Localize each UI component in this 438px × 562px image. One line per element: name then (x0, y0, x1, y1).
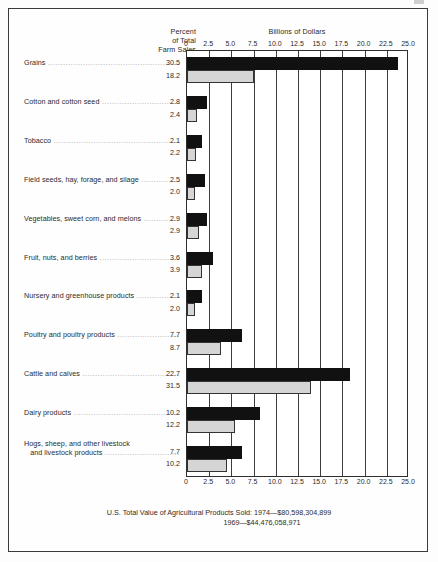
percent-1969: 31.5 (150, 381, 180, 390)
chart-gridline (298, 51, 299, 476)
percent-of-total-value: 22.731.5 (150, 369, 180, 391)
percent-of-total-value: 2.52.0 (150, 175, 180, 197)
x-tick-label: 22.5 (379, 478, 393, 485)
chart-gridline (365, 51, 366, 476)
chart-plot-area: 1974 1969 (186, 50, 408, 477)
bar-1969 (187, 265, 202, 278)
footnote-line-1: U.S. Total Value of Agricultural Product… (107, 508, 331, 517)
percent-1969: 18.2 (150, 71, 180, 80)
percent-of-total-value: 2.12.2 (150, 136, 180, 158)
percent-1974: 7.7 (150, 330, 180, 339)
x-tick-label: 12.5 (290, 40, 304, 47)
x-tick-label: 2.5 (203, 40, 213, 47)
percent-1974: 2.5 (150, 175, 180, 184)
percent-of-total-value: 2.92.9 (150, 214, 180, 236)
percent-of-total-value: 10.212.2 (150, 408, 180, 430)
bar-1969 (187, 381, 311, 394)
bar-1974 (187, 213, 207, 226)
chart-gridline (342, 51, 343, 476)
percent-1974: 3.6 (150, 253, 180, 262)
x-tick-label: 17.5 (335, 40, 349, 47)
bar-1974 (187, 329, 242, 342)
x-tick-label: 7.5 (248, 478, 258, 485)
percent-1969: 2.0 (150, 304, 180, 313)
bar-1974 (187, 446, 242, 459)
percent-of-total-value: 30.518.2 (150, 58, 180, 80)
page-corner-mark (414, 0, 424, 4)
percent-1974: 2.8 (150, 97, 180, 106)
bar-1974 (187, 290, 202, 303)
bar-1974 (187, 407, 260, 420)
percent-1974: 30.5 (150, 58, 180, 67)
percent-1969: 2.0 (150, 187, 180, 196)
percent-1969: 8.7 (150, 343, 180, 352)
bar-1969 (187, 420, 235, 433)
x-tick-label: 10.0 (268, 40, 282, 47)
bar-1974 (187, 57, 398, 70)
x-tick-label: 0 (184, 478, 188, 485)
x-tick-label: 20.0 (357, 478, 371, 485)
x-tick-label: 25.0 (401, 478, 415, 485)
chart-gridline (320, 51, 321, 476)
percent-1969: 2.2 (150, 148, 180, 157)
x-tick-label: 22.5 (379, 40, 393, 47)
percent-1974: 2.1 (150, 291, 180, 300)
x-tick-label: 25.0 (401, 40, 415, 47)
x-tick-label: 2.5 (203, 478, 213, 485)
percent-of-total-value: 3.63.9 (150, 253, 180, 275)
x-tick-label: 15.0 (312, 478, 326, 485)
x-axis-bottom-ticks: 02.55.07.510.012.515.017.520.022.525.0 (186, 478, 408, 488)
percent-1969: 3.9 (150, 265, 180, 274)
bar-1969 (187, 109, 197, 122)
bar-1974 (187, 96, 207, 109)
bar-1969 (187, 70, 254, 83)
percent-1974: 7.7 (150, 447, 180, 456)
x-tick-label: 5.0 (226, 40, 236, 47)
percent-1974: 22.7 (150, 369, 180, 378)
x-axis-top-ticks: 02.55.07.510.012.515.017.520.022.525.0 (186, 40, 408, 50)
percent-1969: 10.2 (150, 459, 180, 468)
bar-1974 (187, 174, 205, 187)
percent-1974: 10.2 (150, 408, 180, 417)
x-tick-label: 12.5 (290, 478, 304, 485)
bar-1969 (187, 148, 196, 161)
x-tick-label: 0 (184, 40, 188, 47)
bar-1969 (187, 226, 199, 239)
percent-of-total-value: 7.78.7 (150, 330, 180, 352)
x-tick-label: 7.5 (248, 40, 258, 47)
percent-1974: 2.1 (150, 136, 180, 145)
percent-1969: 12.2 (150, 420, 180, 429)
x-tick-label: 10.0 (268, 478, 282, 485)
percent-of-total-value: 7.710.2 (150, 447, 180, 469)
x-axis-title: Billions of Dollars (186, 27, 408, 36)
percent-1974: 2.9 (150, 214, 180, 223)
percent-1969: 2.9 (150, 226, 180, 235)
bar-1969 (187, 459, 227, 472)
chart-gridline (387, 51, 388, 476)
x-tick-label: 17.5 (335, 478, 349, 485)
bar-1969 (187, 342, 221, 355)
bar-1969 (187, 303, 195, 316)
bar-1974 (187, 135, 202, 148)
percent-of-total-value: 2.12.0 (150, 291, 180, 313)
bar-1969 (187, 187, 195, 200)
figure-page: Percent of Total Farm Sales Billions of … (0, 0, 438, 562)
x-tick-label: 15.0 (312, 40, 326, 47)
x-tick-label: 20.0 (357, 40, 371, 47)
x-tick-label: 5.0 (226, 478, 236, 485)
footnote-line-2: 1969—$44,476,058,971 (24, 518, 414, 528)
bar-1974 (187, 368, 350, 381)
bar-1974 (187, 252, 213, 265)
chart-footnote: U.S. Total Value of Agricultural Product… (24, 508, 414, 528)
percent-of-total-value: 2.82.4 (150, 97, 180, 119)
percent-1969: 2.4 (150, 110, 180, 119)
chart-gridline (276, 51, 277, 476)
